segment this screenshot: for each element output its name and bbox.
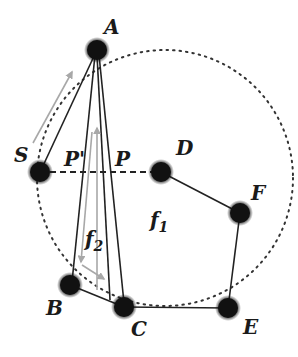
label-c: C [131, 317, 147, 341]
node-a [84, 37, 110, 63]
label-b: B [45, 296, 63, 320]
edge-f-d [161, 172, 240, 213]
node-d [148, 159, 174, 185]
node-f [227, 200, 253, 226]
edge-a-c [99, 55, 124, 303]
label-p-prime: P' [63, 147, 85, 171]
edge-e-f [228, 213, 240, 308]
label-f1: f1 [148, 208, 168, 235]
label-f2: f2 [83, 227, 104, 254]
label-s: S [14, 143, 28, 167]
edge-c-e [124, 307, 228, 308]
label-d: D [175, 136, 194, 160]
planar-graph-diagram: A S D F E C B P' P f1 f2 [0, 0, 298, 357]
arrow-s-to-a [33, 72, 72, 143]
node-b [57, 272, 83, 298]
node-e [215, 295, 241, 321]
label-a: A [102, 15, 120, 39]
arrow-diag-to-c [82, 265, 104, 279]
label-f: F [250, 181, 267, 205]
label-p: P [114, 147, 131, 171]
label-e: E [242, 315, 259, 339]
node-s [27, 159, 53, 185]
